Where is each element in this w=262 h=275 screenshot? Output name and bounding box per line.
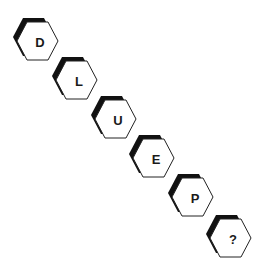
- tile-letter: ?: [206, 213, 256, 261]
- hexagon-tile-unknown: ?: [206, 213, 256, 261]
